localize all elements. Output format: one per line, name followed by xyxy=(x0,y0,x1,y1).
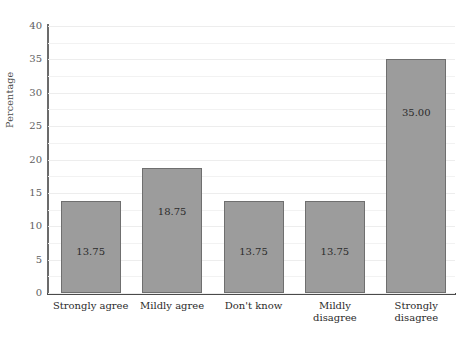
y-axis-tick-label: 5 xyxy=(36,255,42,265)
category-label-line: disagree xyxy=(291,312,379,324)
category-label-line: Strongly agree xyxy=(47,300,135,312)
x-axis-category-label: Strongly agree xyxy=(47,300,135,312)
y-axis-tick-label: 20 xyxy=(29,155,42,165)
y-axis-tick-label: 15 xyxy=(29,188,42,198)
gridline-minor xyxy=(48,43,455,44)
category-label-line: disagree xyxy=(372,312,460,324)
bar-value-label: 13.75 xyxy=(225,247,283,257)
x-axis-category-label: Mildly agree xyxy=(128,300,216,312)
bar: 13.75 xyxy=(61,201,121,293)
category-label-line: Don't know xyxy=(210,300,298,312)
category-label-line: Mildly agree xyxy=(128,300,216,312)
y-axis-tick-label: 30 xyxy=(29,88,42,98)
gridline-major xyxy=(48,26,455,27)
bar: 35.00 xyxy=(386,59,446,293)
x-axis-category-label: Stronglydisagree xyxy=(372,300,460,324)
y-axis-tick-label: 40 xyxy=(29,21,42,31)
category-label-line: Strongly xyxy=(372,300,460,312)
x-axis-category-label: Don't know xyxy=(210,300,298,312)
bar: 13.75 xyxy=(305,201,365,293)
gridline-major xyxy=(48,293,455,294)
bar: 13.75 xyxy=(224,201,284,293)
x-axis-category-label: Mildlydisagree xyxy=(291,300,379,324)
plot-area: 0510152025303540 13.7518.7513.7513.7535.… xyxy=(48,26,455,293)
y-axis-tick-label: 0 xyxy=(36,288,42,298)
y-axis-tick-label: 10 xyxy=(29,221,42,231)
y-axis-tick-label: 35 xyxy=(29,54,42,64)
category-label-line: Mildly xyxy=(291,300,379,312)
bar-value-label: 35.00 xyxy=(387,108,445,118)
bar-value-label: 13.75 xyxy=(62,247,120,257)
y-axis-tick-label: 25 xyxy=(29,121,42,131)
bar: 18.75 xyxy=(142,168,202,293)
bar-value-label: 18.75 xyxy=(143,207,201,217)
y-axis-title: Percentage xyxy=(4,72,15,128)
bar-value-label: 13.75 xyxy=(306,247,364,257)
bar-chart: Percentage 0510152025303540 13.7518.7513… xyxy=(0,0,464,338)
